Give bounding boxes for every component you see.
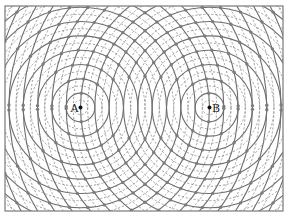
intersection-dot <box>92 162 95 165</box>
intersection-dot <box>271 164 274 167</box>
intersection-dot <box>205 134 208 137</box>
intersection-dot <box>99 175 102 178</box>
intersection-dot <box>211 192 214 195</box>
intersection-dot <box>227 160 230 163</box>
intersection-dot <box>86 206 89 209</box>
crest-ring-a <box>0 22 166 194</box>
intersection-dot <box>82 134 85 137</box>
intersection-dot <box>162 50 165 53</box>
intersection-dot <box>203 34 206 37</box>
trough-ring-a <box>0 0 188 215</box>
intersection-dot <box>166 31 169 34</box>
intersection-dot <box>162 161 165 164</box>
intersection-dot <box>219 6 222 9</box>
intersection-dot <box>67 132 70 135</box>
intersection-dot <box>105 157 108 160</box>
intersection-dot <box>92 191 95 194</box>
intersection-dot <box>22 104 25 107</box>
intersection-dot <box>135 151 138 154</box>
intersection-dot <box>279 103 282 106</box>
intersection-dot <box>220 35 223 38</box>
intersection-dot <box>179 187 182 190</box>
intersection-dot <box>57 23 60 26</box>
intersection-dot <box>265 108 268 111</box>
intersection-dot <box>76 20 79 23</box>
intersection-dot <box>170 149 173 152</box>
intersection-dot <box>16 47 19 50</box>
intersection-dot <box>195 50 198 53</box>
diagram-frame <box>5 6 283 211</box>
intersection-dot <box>49 41 52 44</box>
intersection-dot <box>121 181 124 184</box>
intersection-dot <box>143 11 146 14</box>
intersection-dot <box>76 163 79 166</box>
intersection-dot <box>124 161 127 164</box>
intersection-dot <box>229 23 232 26</box>
intersection-dot <box>258 157 261 160</box>
intersection-dot <box>169 198 172 201</box>
intersection-dot <box>260 20 263 23</box>
intersection-dot <box>135 61 138 64</box>
intersection-dot <box>112 42 115 45</box>
intersection-dot <box>68 205 71 208</box>
intersection-dot <box>279 108 282 111</box>
intersection-dot <box>170 63 173 66</box>
intersection-dot <box>159 136 162 139</box>
intersection-dot <box>133 39 136 42</box>
intersection-dot <box>258 55 261 58</box>
intersection-dot <box>107 187 110 190</box>
intersection-dot <box>76 192 79 195</box>
trough-ring-a <box>0 0 231 217</box>
intersection-dot <box>7 108 10 111</box>
intersection-dot <box>86 63 89 66</box>
intersection-dot <box>182 55 185 58</box>
intersection-dot <box>92 50 95 53</box>
intersection-dot <box>50 104 53 107</box>
intersection-dot <box>105 55 108 58</box>
intersection-dot <box>201 148 204 151</box>
intersection-dot <box>107 25 110 28</box>
intersection-dot <box>36 104 39 107</box>
intersection-dot <box>131 191 134 194</box>
intersection-dot <box>201 206 204 209</box>
intersection-dot <box>54 141 57 144</box>
intersection-dot <box>71 148 74 151</box>
intersection-dot <box>48 201 51 204</box>
intersection-dot <box>37 181 40 184</box>
intersection-dot <box>220 176 223 179</box>
intersection-dot <box>245 62 248 65</box>
intersection-dot <box>112 169 115 172</box>
intersection-dot <box>210 163 213 166</box>
intersection-dot <box>143 183 146 186</box>
intersection-dot <box>37 30 40 33</box>
intersection-dot <box>271 201 274 204</box>
intersection-dot <box>260 191 263 194</box>
intersection-dot <box>159 75 162 78</box>
intersection-dot <box>111 134 114 137</box>
intersection-dot <box>187 143 190 146</box>
intersection-dot <box>184 8 187 11</box>
source-label-a: A <box>70 102 80 115</box>
intersection-dot <box>188 37 191 40</box>
intersection-dot <box>65 105 68 108</box>
intersection-dot <box>16 164 19 167</box>
intersection-dot <box>67 35 70 38</box>
intersection-dot <box>188 175 191 178</box>
intersection-dot <box>271 47 274 50</box>
intersection-dot <box>184 203 187 206</box>
trough-ring-a <box>0 14 174 200</box>
intersection-dot <box>50 107 53 110</box>
intersection-dot <box>239 10 242 13</box>
intersection-dot <box>29 157 32 160</box>
intersection-dot <box>60 52 63 55</box>
intersection-dot <box>143 29 146 32</box>
intersection-dot <box>191 129 194 132</box>
intersection-dot <box>100 143 103 146</box>
intersection-dot <box>205 77 208 80</box>
intersection-dot <box>194 191 197 194</box>
intersection-dot <box>174 169 177 172</box>
intersection-dot <box>220 80 223 83</box>
intersection-dot <box>118 198 121 201</box>
intersection-dot <box>68 6 71 9</box>
intersection-dot <box>96 129 99 132</box>
